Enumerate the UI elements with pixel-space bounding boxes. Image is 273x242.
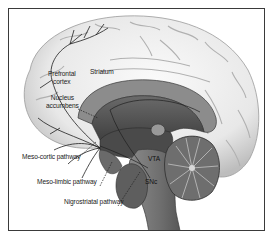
label-nigrostriatal-pathway: Nigrostriatal pathway: [64, 198, 123, 206]
label-nucleus-accumbens-line1: Nucleus: [46, 94, 79, 102]
label-snc: SNc: [145, 178, 157, 186]
label-prefrontal-cortex-line1: Prefrontal: [48, 70, 76, 78]
label-meso-cortic-pathway: Meso-cortic pathway: [22, 153, 81, 161]
label-meso-limbic-pathway: Meso-limbic pathway: [37, 178, 97, 186]
label-vta: VTA: [148, 155, 160, 163]
label-nucleus-accumbens-line2: accumbens: [46, 102, 79, 110]
label-prefrontal-cortex-line2: cortex: [48, 78, 76, 86]
cerebellum: [165, 136, 220, 200]
colliculus: [151, 124, 165, 136]
label-striatum: Striatum: [90, 68, 114, 76]
brain-illustration: [0, 0, 273, 242]
label-nucleus-accumbens: Nucleus accumbens: [46, 94, 79, 109]
label-prefrontal-cortex: Prefrontal cortex: [48, 70, 76, 85]
